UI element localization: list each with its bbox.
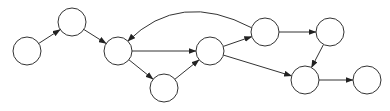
node-n1 bbox=[13, 37, 41, 65]
node-n8 bbox=[291, 66, 319, 94]
node-n5 bbox=[196, 37, 224, 65]
node-n6 bbox=[251, 18, 279, 46]
nodes-layer bbox=[13, 8, 381, 102]
edge-n5-to-n6 bbox=[223, 37, 252, 47]
node-n9 bbox=[353, 66, 381, 94]
node-n2 bbox=[58, 8, 86, 36]
directed-graph-diagram bbox=[0, 0, 390, 111]
node-n3 bbox=[104, 37, 132, 65]
node-n4 bbox=[150, 74, 178, 102]
edge-n5-to-n8 bbox=[223, 55, 291, 76]
edge-n4-to-n5 bbox=[175, 60, 199, 79]
edge-n1-to-n2 bbox=[39, 30, 60, 44]
edge-n3-to-n4 bbox=[129, 60, 153, 79]
edge-n2-to-n3 bbox=[84, 29, 106, 43]
edge-n7-to-n8 bbox=[311, 44, 323, 67]
edge-n6-to-n3 bbox=[128, 12, 252, 42]
node-n7 bbox=[316, 18, 344, 46]
